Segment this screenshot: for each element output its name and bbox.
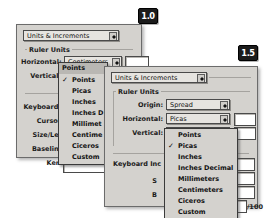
vertical-units-dropdown-v15[interactable]: Points ✓ Picas Inches Inches Decimal Mil… <box>164 128 238 218</box>
ruler-units-group-label-v10: Ruler Units <box>27 46 72 54</box>
checkmark-icon: ✓ <box>62 75 68 86</box>
panel-selector-popup-v15[interactable]: Units & Increments <box>111 72 207 83</box>
panel-selector-label-v10: Units & Increments <box>27 32 89 40</box>
menu-item[interactable]: Inches D <box>59 108 107 119</box>
size-leading-label-v10: Size/Lea <box>17 131 63 139</box>
horizontal-units-value-v15: Picas <box>170 115 187 123</box>
kerning-label-v10: Ker <box>17 159 59 167</box>
baseline-shift-label-v10: Baseline <box>17 145 63 153</box>
keyboard-increments-label-v10: Keyboard I <box>17 103 63 111</box>
menu-item[interactable]: Millimeters <box>165 174 237 185</box>
updown-arrows-icon <box>197 74 205 83</box>
horizontal-increment-field-v15[interactable] <box>234 113 256 126</box>
version-badge-15-label: 1.5 <box>240 46 257 60</box>
menu-item-label: Custom <box>178 208 206 216</box>
baseline-shift-label-v15: B <box>133 191 157 199</box>
vertical-units-dropdown-list-v10: ✓ Points Picas Inches Inches D Millimet … <box>59 74 107 164</box>
menu-item[interactable]: Custom <box>59 152 107 163</box>
vertical-label-v15: Vertical: <box>119 129 163 137</box>
menu-item[interactable]: ✓ Picas <box>165 141 237 152</box>
menu-item-label: Millimeters <box>178 175 219 183</box>
panel-selector-popup-v10[interactable]: Units & Increments <box>23 30 119 41</box>
origin-label-v15: Origin: <box>119 101 163 109</box>
version-badge-10-label: 1.0 <box>140 9 157 23</box>
horizontal-label-v15: Horizontal: <box>119 115 163 123</box>
origin-popup-v15[interactable]: Spread <box>166 99 230 110</box>
menu-item[interactable]: Picas <box>59 86 107 97</box>
cursor-key-label-v10: Cursor <box>17 117 61 125</box>
kerning-units-suffix-v15: /100 <box>247 203 263 211</box>
vertical-units-dropdown-v10[interactable]: Points ✓ Points Picas Inches Inches D Mi… <box>58 62 108 165</box>
origin-value-v15: Spread <box>170 101 193 109</box>
menu-item[interactable]: Inches <box>59 97 107 108</box>
menu-item[interactable]: Custom <box>165 207 237 218</box>
menu-item-label: Picas <box>72 87 91 95</box>
menu-item[interactable]: Ciceros <box>59 141 107 152</box>
horizontal-units-popup-v15[interactable]: Picas <box>166 113 230 124</box>
size-leading-label-v15: S <box>133 177 157 185</box>
vertical-label-v10: Vertical: <box>21 72 61 80</box>
menu-item-label: Points <box>72 76 95 84</box>
menu-item[interactable]: Ciceros <box>165 196 237 207</box>
menu-item-label: Inches Decimal <box>178 164 233 172</box>
version-badge-10: 1.0 <box>138 8 158 24</box>
version-badge-15: 1.5 <box>238 45 258 61</box>
screenshot-canvas: 1.0 Units & Increments Ruler Units Horiz… <box>0 0 264 218</box>
menu-item-label: Millimet <box>72 120 102 128</box>
menu-item-label: Centimeters <box>178 186 223 194</box>
menu-item[interactable]: Centimeters <box>165 185 237 196</box>
menu-item[interactable]: Inches <box>165 152 237 163</box>
menu-item-label: Centime <box>72 131 102 139</box>
menu-item-label: Inches <box>72 98 96 106</box>
menu-item[interactable]: Centime <box>59 130 107 141</box>
menu-item[interactable]: Millimet <box>59 119 107 130</box>
menu-item[interactable]: ✓ Points <box>59 75 107 86</box>
menu-item-label: Inches D <box>72 109 103 117</box>
menu-item-label: Inches <box>178 153 202 161</box>
vertical-units-dropdown-list-v15: Points ✓ Picas Inches Inches Decimal Mil… <box>165 129 237 218</box>
updown-arrows-icon <box>220 101 228 110</box>
menu-item-label: Points <box>178 131 201 139</box>
checkmark-icon: ✓ <box>168 141 174 152</box>
horizontal-label-v10: Horizontal: <box>21 58 61 66</box>
panel-selector-label-v15: Units & Increments <box>115 74 177 82</box>
updown-arrows-icon <box>220 115 228 124</box>
updown-arrows-icon <box>109 32 117 41</box>
menu-item[interactable]: Points <box>165 130 237 141</box>
menu-item-label: Custom <box>72 153 100 161</box>
ruler-units-group-label-v15: Ruler Units <box>116 88 161 96</box>
menu-item-label: Ciceros <box>72 142 99 150</box>
vertical-units-dropdown-header-v10: Points <box>59 63 107 74</box>
keyboard-increments-label-v15: Keyboard Inc <box>113 160 161 168</box>
menu-item[interactable]: Inches Decimal <box>165 163 237 174</box>
panel-header-rule-v15 <box>209 77 251 78</box>
menu-item-label: Ciceros <box>178 197 205 205</box>
menu-item-label: Picas <box>178 142 197 150</box>
